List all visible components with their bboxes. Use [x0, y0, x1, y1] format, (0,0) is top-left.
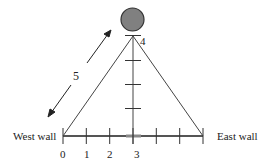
west-wall-label: West wall — [13, 130, 56, 142]
west-string — [63, 36, 133, 136]
hypotenuse-length-label: 5 — [73, 69, 79, 83]
ball-hanging-diagram: 5 4 West wall East wall 0 1 2 3 — [0, 0, 270, 164]
east-wall-label: East wall — [217, 130, 258, 142]
hanging-ball — [121, 8, 144, 31]
length-arrow — [48, 30, 111, 117]
tick-label-0: 0 — [60, 148, 66, 160]
tick-label-3: 3 — [134, 148, 140, 160]
height-value-label: 4 — [140, 35, 146, 47]
tick-label-2: 2 — [107, 148, 113, 160]
tick-label-1: 1 — [84, 148, 90, 160]
east-string — [133, 36, 203, 136]
